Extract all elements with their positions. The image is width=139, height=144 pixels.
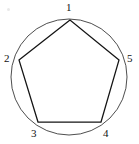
vertex-label-1: 1 [66, 2, 72, 13]
pentagon-shape [19, 20, 119, 122]
vertex-label-2: 2 [4, 53, 10, 64]
vertex-label-5: 5 [127, 53, 133, 64]
geometry-figure: 1 2 3 4 5 [0, 0, 139, 144]
circumcircle [11, 19, 127, 135]
vertex-label-3: 3 [31, 128, 37, 139]
figure-canvas [0, 0, 139, 144]
vertex-label-4: 4 [103, 128, 109, 139]
corner-speck [7, 8, 10, 11]
